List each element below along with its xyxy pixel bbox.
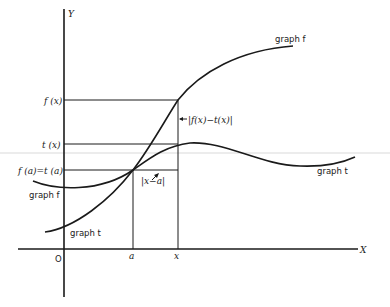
origin-label: O bbox=[55, 254, 62, 264]
vertical-gap-arrow bbox=[179, 117, 187, 121]
graph-f-curve bbox=[45, 46, 293, 232]
y-axis-label: Y bbox=[68, 9, 75, 19]
graph-f-left-label: graph f bbox=[29, 190, 61, 200]
horizontal-gap-label: |x−a| bbox=[141, 176, 165, 187]
graph-f-right-label: graph f bbox=[275, 34, 307, 44]
graph-t-right-label: graph t bbox=[317, 166, 349, 176]
fa-ta-label: f (a)=t (a) bbox=[17, 166, 63, 176]
tx-label: t (x) bbox=[42, 140, 61, 150]
x-tick-a: a bbox=[129, 251, 134, 261]
graph-t-left-label: graph t bbox=[70, 228, 102, 238]
vertical-gap-label: |f(x)−t(x)| bbox=[188, 115, 233, 126]
tangent-approximation-diagram: Y X O a x f (x) t (x) f (a)=t (a) graph … bbox=[0, 0, 390, 307]
x-axis-label: X bbox=[359, 245, 367, 255]
graph-t-curve bbox=[33, 143, 355, 188]
fx-label: f (x) bbox=[43, 96, 63, 106]
x-tick-x: x bbox=[174, 251, 179, 261]
